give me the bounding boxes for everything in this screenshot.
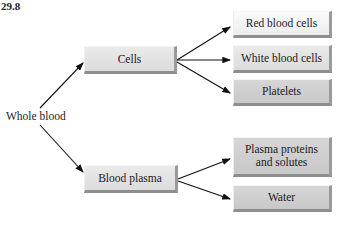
blood-plasma-box: Blood plasma [84, 165, 178, 193]
water-label: Water [268, 191, 295, 204]
white-blood-cells-box: White blood cells [233, 45, 332, 73]
platelets-box: Platelets [233, 79, 332, 106]
plasma-proteins-box: Plasma proteins and solutes [233, 137, 332, 177]
red-blood-cells-box: Red blood cells [233, 11, 332, 38]
cells-label: Cells [118, 53, 142, 66]
platelets-label: Platelets [262, 85, 301, 98]
water-box: Water [233, 185, 332, 212]
blood-plasma-label: Blood plasma [98, 172, 162, 185]
whole-blood-label: Whole blood [6, 110, 66, 122]
plasma-proteins-label: Plasma proteins and solutes [245, 143, 318, 169]
red-blood-cells-label: Red blood cells [246, 17, 318, 30]
cells-box: Cells [84, 46, 177, 74]
white-blood-cells-label: White blood cells [241, 52, 322, 65]
plasma-proteins-line2: and solutes [256, 156, 307, 168]
plasma-proteins-line1: Plasma proteins [245, 143, 318, 155]
